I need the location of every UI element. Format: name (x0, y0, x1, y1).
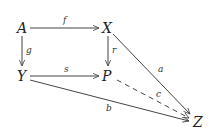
node-Y: Y (17, 68, 28, 84)
arrow-c (117, 80, 189, 118)
node-Z: Z (192, 114, 203, 130)
arrow-b (30, 80, 189, 121)
commutative-diagram: A X Y P Z f g r s a b c (0, 0, 213, 135)
label-b: b (106, 103, 112, 113)
label-g: g (26, 45, 32, 55)
node-A: A (15, 20, 27, 36)
label-c: c (156, 89, 161, 99)
arrow-a (113, 34, 190, 114)
label-f: f (62, 15, 68, 25)
node-P: P (101, 68, 112, 84)
label-s: s (64, 64, 69, 74)
node-X: X (101, 20, 113, 36)
label-a: a (158, 64, 163, 74)
label-r: r (112, 45, 117, 55)
